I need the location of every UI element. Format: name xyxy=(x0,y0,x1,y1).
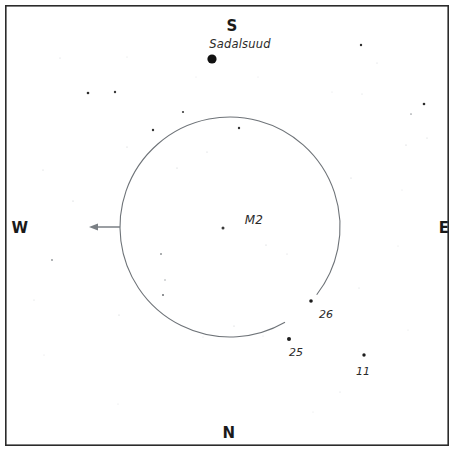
field-star xyxy=(114,91,116,93)
field-star xyxy=(361,93,362,94)
object-marker-26 xyxy=(309,299,313,303)
field-star xyxy=(423,103,426,106)
field-star xyxy=(51,259,53,261)
object-marker-sadalsuud xyxy=(207,54,216,63)
field-star xyxy=(42,169,43,170)
field-star xyxy=(206,151,207,152)
field-star xyxy=(152,129,154,131)
field-star xyxy=(313,412,314,413)
field-star xyxy=(162,294,164,296)
object-label-11: 11 xyxy=(356,365,370,378)
field-star xyxy=(72,200,73,201)
chart-frame xyxy=(6,6,448,445)
object-label-m2: M2 xyxy=(245,213,264,227)
field-star xyxy=(286,253,287,254)
field-star xyxy=(263,336,264,337)
cardinal-label-e: E xyxy=(439,219,450,237)
cardinal-label-n: N xyxy=(223,424,236,442)
object-label-26: 26 xyxy=(319,308,333,321)
field-star xyxy=(350,177,351,178)
cardinal-label-s: S xyxy=(226,17,237,35)
field-star xyxy=(376,62,377,63)
field-star xyxy=(238,127,240,129)
field-star xyxy=(164,279,166,281)
field-star xyxy=(410,113,412,115)
field-star xyxy=(405,144,406,145)
field-star xyxy=(408,330,409,331)
object-label-sadalsuud: Sadalsuud xyxy=(209,37,271,51)
field-star xyxy=(182,111,184,113)
field-star xyxy=(118,404,119,405)
field-star xyxy=(33,299,34,300)
object-label-25: 25 xyxy=(289,346,303,359)
field-star xyxy=(59,57,60,58)
field-star xyxy=(426,137,427,138)
field-star xyxy=(339,391,340,392)
field-star xyxy=(196,77,197,78)
object-marker-11 xyxy=(362,353,365,356)
field-star xyxy=(118,314,119,315)
object-marker-m2 xyxy=(222,227,225,230)
star-chart-finder: SWEN SadalsuudM2262511 xyxy=(0,0,454,451)
field-star xyxy=(360,44,362,46)
field-star xyxy=(398,246,399,247)
field-star xyxy=(127,57,128,58)
field-star xyxy=(332,92,333,93)
field-star xyxy=(402,190,403,191)
field-star xyxy=(87,92,90,95)
field-star xyxy=(44,355,45,356)
object-marker-25 xyxy=(287,337,291,341)
cardinal-label-w: W xyxy=(12,219,29,237)
field-star xyxy=(258,77,259,78)
sky-canvas xyxy=(0,0,454,451)
field-star xyxy=(233,325,234,326)
field-star xyxy=(358,287,359,288)
field-star xyxy=(126,146,127,147)
field-star xyxy=(265,244,266,245)
field-star xyxy=(160,253,162,255)
field-star xyxy=(176,167,177,168)
field-star xyxy=(203,337,204,338)
